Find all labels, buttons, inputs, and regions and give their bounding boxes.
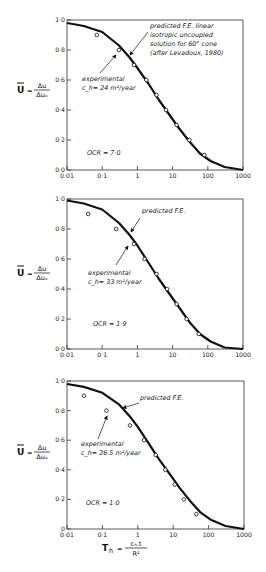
experimental-point xyxy=(128,424,132,428)
predicted-annotation: isotropic uncoupled xyxy=(150,31,214,39)
experimental-point xyxy=(154,453,158,457)
svg-text:Δuₒ: Δuₒ xyxy=(36,453,48,461)
svg-text:Δu: Δu xyxy=(38,82,47,90)
experimental-point xyxy=(195,512,199,516)
y-axis-label: U=ΔuΔuₒ xyxy=(17,444,50,461)
x-tick-label: 100 xyxy=(202,351,214,358)
y-tick-label: 1·0 xyxy=(55,195,65,202)
x-tick-label: 0·1 xyxy=(97,172,107,179)
experimental-point xyxy=(203,153,207,157)
predicted-annotation: solution for 60° cone xyxy=(150,40,217,48)
chart-panel-3: 0·010·1110100100000·20·40·60·81·0predict… xyxy=(17,377,252,538)
experimental-point xyxy=(155,93,159,97)
svg-text:=: = xyxy=(27,449,32,457)
ocr-label: OCR = 7·0 xyxy=(87,149,121,157)
experimental-point xyxy=(155,272,159,276)
experimental-point xyxy=(132,242,136,246)
y-tick-label: 0·8 xyxy=(55,46,65,53)
arrow-icon xyxy=(116,246,128,265)
y-axis-label: U=ΔuΔuₒ xyxy=(17,265,50,282)
x-tick-label: 0·01 xyxy=(60,351,74,358)
ocr-label: OCR = 1·0 xyxy=(86,499,120,507)
arrow-icon xyxy=(131,218,140,232)
svg-text:U: U xyxy=(17,447,24,457)
svg-text:Δuₒ: Δuₒ xyxy=(36,91,48,99)
x-axis-label: Th=cₕ.tR² xyxy=(102,540,147,558)
svg-text:R²: R² xyxy=(132,550,140,558)
x-tick-label: 0·01 xyxy=(60,531,74,538)
figure-three-panel-dissipation: 0·010·111010010000·00·20·40·60·81·0predi… xyxy=(0,0,266,572)
experimental-annotation: experimental xyxy=(88,269,131,277)
y-tick-label: 0·6 xyxy=(55,255,65,262)
x-tick-label: 1000 xyxy=(235,172,251,179)
y-tick-label: 1·0 xyxy=(55,16,65,23)
y-tick-label: 1·0 xyxy=(55,377,65,384)
experimental-point xyxy=(132,63,136,67)
experimental-point xyxy=(114,227,118,231)
svg-text:Δu: Δu xyxy=(38,444,47,452)
arrow-icon xyxy=(98,416,107,439)
x-tick-label: 1000 xyxy=(236,531,252,538)
experimental-point xyxy=(188,138,192,142)
experimental-point xyxy=(145,78,149,82)
x-tick-label: 100 xyxy=(203,531,215,538)
svg-text:=: = xyxy=(117,545,122,553)
y-tick-label: 0·0 xyxy=(55,345,65,352)
experimental-point xyxy=(82,394,86,398)
experimental-point xyxy=(185,317,189,321)
predicted-annotation: predicted F.E. linear xyxy=(149,22,214,30)
x-tick-label: 0·01 xyxy=(60,172,74,179)
experimental-annotation: c_h= 26.5 m²/year xyxy=(81,449,141,457)
experimental-point xyxy=(175,302,179,306)
ocr-label: OCR = 1·9 xyxy=(93,320,127,328)
x-tick-label: 1 xyxy=(135,351,139,358)
y-tick-label: 0·6 xyxy=(55,76,65,83)
experimental-point xyxy=(86,212,90,216)
arrow-icon xyxy=(130,32,148,55)
svg-text:U: U xyxy=(17,85,24,95)
experimental-point xyxy=(117,48,121,52)
y-tick-label: 0·8 xyxy=(55,407,65,414)
arrow-icon xyxy=(123,403,139,408)
experimental-point xyxy=(197,332,201,336)
y-axis-label: U=ΔuΔuₒ xyxy=(17,82,50,99)
experimental-point xyxy=(164,108,168,112)
svg-text:cₕ.t: cₕ.t xyxy=(131,540,142,548)
x-tick-label: 0·1 xyxy=(97,351,107,358)
experimental-annotation: c_h= 33 m²/year xyxy=(88,278,142,286)
experimental-annotation: c_h= 24 m²/year xyxy=(82,84,136,92)
experimental-point xyxy=(142,438,146,442)
experimental-annotation: experimental xyxy=(81,440,124,448)
y-tick-label: 0·4 xyxy=(55,106,65,113)
x-tick-label: 100 xyxy=(202,172,214,179)
experimental-point xyxy=(173,483,177,487)
experimental-point xyxy=(182,498,186,502)
y-tick-label: 0·8 xyxy=(55,225,65,232)
y-tick-label: 0 xyxy=(61,525,65,532)
x-tick-label: 10 xyxy=(169,531,177,538)
y-tick-label: 0·4 xyxy=(55,466,65,473)
x-tick-label: 1 xyxy=(135,172,139,179)
svg-text:Δuₒ: Δuₒ xyxy=(36,274,48,282)
svg-text:=: = xyxy=(27,87,32,95)
experimental-point xyxy=(164,468,168,472)
experimental-point xyxy=(165,287,169,291)
svg-text:U: U xyxy=(17,268,24,278)
y-tick-label: 0·6 xyxy=(55,436,65,443)
experimental-point xyxy=(95,33,99,37)
predicted-annotation: predicted F.E. xyxy=(139,394,183,402)
svg-text:=: = xyxy=(27,270,32,278)
experimental-point xyxy=(175,123,179,127)
y-tick-label: 0·2 xyxy=(55,136,65,143)
x-tick-label: 1000 xyxy=(235,351,251,358)
y-tick-label: 0·2 xyxy=(55,315,65,322)
x-tick-label: 10 xyxy=(169,351,177,358)
chart-panel-2: 0·010·111010010000·00·20·40·60·81·0predi… xyxy=(17,195,251,358)
x-tick-label: 10 xyxy=(169,172,177,179)
experimental-annotation: experimental xyxy=(82,75,125,83)
x-tick-label: 0·1 xyxy=(97,531,107,538)
arrow-icon xyxy=(100,55,116,73)
svg-text:T: T xyxy=(102,543,109,553)
svg-text:Δu: Δu xyxy=(38,265,47,273)
x-tick-label: 1 xyxy=(136,531,140,538)
